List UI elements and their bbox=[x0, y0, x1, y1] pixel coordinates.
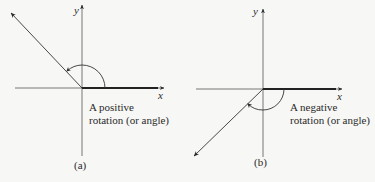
rotation-diagram: y x A positive rotation (or angle) (a) y… bbox=[0, 0, 375, 182]
rotation-arc-ccw bbox=[67, 65, 105, 88]
y-axis-label: y bbox=[73, 4, 79, 16]
caption-line-1: A negative bbox=[290, 101, 337, 113]
panel-a: y x A positive rotation (or angle) (a) bbox=[11, 4, 169, 172]
caption-line-1: A positive bbox=[89, 101, 134, 113]
panel-label: (a) bbox=[74, 159, 87, 172]
x-axis-label: x bbox=[157, 89, 163, 101]
rotation-arc-cw bbox=[248, 89, 284, 110]
terminal-side-arrow bbox=[11, 13, 82, 88]
panel-label: (b) bbox=[254, 156, 267, 169]
caption-line-2: rotation (or angle) bbox=[89, 114, 169, 127]
caption-line-2: rotation (or angle) bbox=[290, 114, 370, 127]
panel-b: y x A negative rotation (or angle) (b) bbox=[194, 5, 370, 169]
y-axis-label: y bbox=[252, 5, 258, 17]
terminal-side-arrow bbox=[194, 89, 263, 156]
